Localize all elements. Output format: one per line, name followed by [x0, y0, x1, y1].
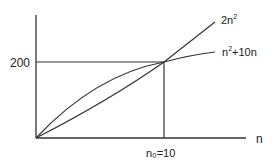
curve-n-squared-plus-10n [36, 52, 215, 138]
x-axis-label: n [256, 132, 263, 146]
chart: 200 n n₀=10 2n2 n2+10n [0, 0, 278, 167]
legend-2n-squared: 2n2 [221, 13, 237, 26]
curve-2n-squared [36, 22, 215, 138]
y-marker-label: 200 [10, 56, 30, 70]
legend-n-squared-plus-10n: n2+10n [222, 45, 257, 58]
x-marker-label: n₀=10 [146, 147, 175, 159]
